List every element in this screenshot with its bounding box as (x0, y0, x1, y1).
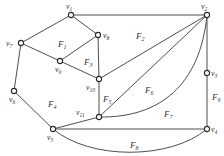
face-label-f2: F2 (135, 31, 145, 42)
vertex-labels: v1 v2 v3 v4 v5 v6 v7 v8 v9 v10 v11 (6, 2, 218, 143)
vertex-v1 (68, 12, 73, 17)
vertex-v6 (11, 88, 16, 93)
vertex-label-v3: v3 (211, 69, 218, 79)
vertex-v8 (95, 32, 100, 37)
edge-v11-v2 (99, 15, 207, 117)
edge-v7-v9 (21, 43, 60, 61)
face-label-f8: F8 (129, 140, 139, 151)
vertex-label-v4: v4 (211, 125, 218, 135)
vertex-label-v7: v7 (6, 39, 13, 49)
face-label-f9: F9 (211, 92, 221, 103)
vertex-v10 (96, 76, 101, 81)
planar-graph-diagram: v1 v2 v3 v4 v5 v6 v7 v8 v9 v10 v11 F1 F2… (0, 0, 224, 156)
face-label-f5: F5 (102, 94, 112, 105)
face-label-f6: F6 (144, 85, 154, 96)
edge-v8-v10 (98, 35, 99, 79)
edge-v6-v5 (14, 91, 53, 129)
face-labels: F1 F2 F3 F4 F5 F6 F7 F8 F9 (47, 31, 221, 151)
vertex-v7 (18, 40, 23, 45)
vertex-label-v6: v6 (9, 95, 16, 105)
edge-v1-v7 (21, 15, 71, 43)
vertex-v9 (57, 58, 62, 63)
vertex-v2 (204, 12, 209, 17)
edge-v5-v11 (53, 117, 99, 129)
edge-v9-v10 (60, 61, 99, 79)
edge-v10-v2 (99, 15, 207, 79)
vertex-label-v2: v2 (201, 2, 208, 12)
vertex-v4 (204, 126, 209, 131)
vertex-v5 (50, 126, 55, 131)
edge-v7-v6 (14, 43, 21, 91)
edge-v1-v8 (71, 15, 98, 35)
face-label-f4: F4 (47, 99, 57, 110)
face-label-f3: F3 (83, 57, 93, 68)
edges (14, 15, 207, 152)
vertex-v11 (96, 114, 101, 119)
vertex-label-v1: v1 (66, 2, 73, 12)
vertex-v3 (204, 70, 209, 75)
face-label-f7: F7 (163, 109, 174, 120)
vertex-label-v8: v8 (103, 31, 110, 41)
vertex-label-v10: v10 (86, 83, 95, 93)
vertex-label-v5: v5 (47, 133, 54, 143)
vertex-label-v9: v9 (55, 65, 62, 75)
vertex-label-v11: v11 (76, 108, 85, 118)
face-label-f1: F1 (57, 39, 67, 50)
